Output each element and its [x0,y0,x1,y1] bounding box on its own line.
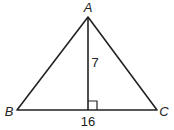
vertex-label-a: A [83,0,93,15]
triangle-abc [17,17,157,110]
base-length-label: 16 [81,114,95,129]
vertex-label-c: C [159,104,169,119]
altitude-length-label: 7 [91,55,98,70]
vertex-label-b: B [5,104,14,119]
right-angle-marker [88,101,97,110]
triangle-diagram: A B C 7 16 [0,0,174,130]
